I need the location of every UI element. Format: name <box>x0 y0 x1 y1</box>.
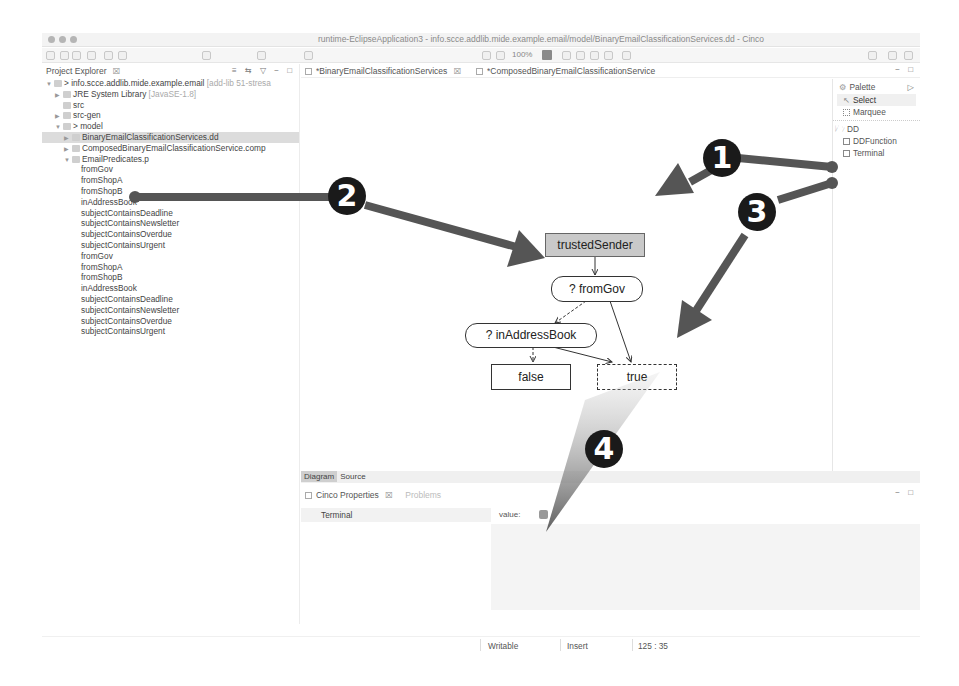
node-true-terminal[interactable]: true <box>597 364 677 390</box>
node-in-address-book[interactable]: ? inAddressBook <box>465 323 597 348</box>
tree-item[interactable]: ▼EmailPredicates.p <box>42 154 299 165</box>
project-explorer-title[interactable]: Project Explorer <box>46 66 106 76</box>
tree-item[interactable]: subjectContainsOverdue <box>42 316 299 327</box>
tree-item[interactable]: src <box>42 100 299 111</box>
java-perspective-icon[interactable] <box>888 51 897 60</box>
tree-item[interactable]: ▼> model <box>42 121 299 132</box>
cinco-properties-view: Cinco Properties ☒ Problems − □ Terminal… <box>301 484 920 624</box>
align-right-icon[interactable] <box>590 51 599 60</box>
tree-item-label: ComposedBinaryEmailClassificationService… <box>82 143 266 153</box>
tab-binary-email-classification-services[interactable]: *BinaryEmailClassificationServices ☒ <box>305 66 461 76</box>
save-all-icon[interactable] <box>72 51 81 60</box>
cinco-perspective-icon[interactable] <box>904 51 913 60</box>
properties-icon <box>305 492 312 499</box>
tree-item[interactable]: inAddressBook <box>42 197 299 208</box>
tab-cinco-properties[interactable]: Cinco Properties <box>316 490 379 500</box>
tree-item[interactable]: ▶BinaryEmailClassificationServices.dd <box>42 132 299 143</box>
tree-item-label: subjectContainsOverdue <box>81 316 172 326</box>
close-tab-icon[interactable]: ☒ <box>454 66 462 76</box>
tree-item[interactable]: inAddressBook <box>42 283 299 294</box>
tree-item-label: fromShopA <box>81 175 123 185</box>
refresh-icon[interactable] <box>104 51 113 60</box>
tab-diagram[interactable]: Diagram <box>301 471 337 482</box>
tree-item[interactable]: subjectContainsOverdue <box>42 229 299 240</box>
tree-item[interactable]: fromShopB <box>42 272 299 283</box>
tree-item-decoration: [JavaSE-1.8] <box>146 89 196 99</box>
value-label: value: <box>499 510 520 519</box>
tree-item[interactable]: subjectContainsUrgent <box>42 326 299 337</box>
select-arrow-icon: ↖ <box>843 95 850 105</box>
tree-item-label: fromGov <box>81 251 113 261</box>
editor-window-controls[interactable]: − □ <box>895 65 916 74</box>
tree-item[interactable]: subjectContainsNewsletter <box>42 218 299 229</box>
tab-composed-binary-email-classification-service[interactable]: *ComposedBinaryEmailClassificationServic… <box>476 66 655 76</box>
tree-item-label: JRE System Library <box>73 89 146 99</box>
tree-item[interactable]: fromGov <box>42 164 299 175</box>
palette-tool-marquee[interactable]: Marquee <box>833 106 920 118</box>
tree-item[interactable]: ▶JRE System Library [JavaSE-1.8] <box>42 89 299 100</box>
close-tab-icon[interactable]: ☒ <box>385 490 393 500</box>
zoom-in-icon[interactable] <box>496 51 505 60</box>
properties-window-controls[interactable]: − □ <box>895 488 916 497</box>
editor-tab-bar: *BinaryEmailClassificationServices ☒ *Co… <box>301 64 920 78</box>
save-icon[interactable] <box>60 51 69 60</box>
tree-item[interactable]: ▼> info.scce.addlib.mide.example.email [… <box>42 78 299 89</box>
run-icon[interactable] <box>118 51 127 60</box>
palette-toggle-icon[interactable] <box>542 50 552 60</box>
tree-item[interactable]: subjectContainsDeadline <box>42 294 299 305</box>
tree-item[interactable]: subjectContainsUrgent <box>42 240 299 251</box>
diagram-canvas[interactable]: trustedSender ? fromGov ? inAddressBook … <box>301 79 831 471</box>
distribute-icon[interactable] <box>622 51 631 60</box>
align-left-icon[interactable] <box>562 51 571 60</box>
tree-item-label: fromGov <box>81 164 113 174</box>
tree-item[interactable]: fromGov <box>42 251 299 262</box>
tree-item[interactable]: fromShopA <box>42 175 299 186</box>
node-trusted-sender[interactable]: trustedSender <box>545 233 645 257</box>
value-checkbox[interactable] <box>539 510 548 519</box>
tree-item-label: src-gen <box>73 110 101 120</box>
palette-item-terminal[interactable]: Terminal <box>833 147 920 159</box>
tree-item[interactable]: fromShopB <box>42 186 299 197</box>
node-from-gov[interactable]: ? fromGov <box>551 276 643 302</box>
diagram-file-icon <box>476 68 483 75</box>
close-tab-icon[interactable]: ☒ <box>113 66 121 76</box>
palette-group-dd[interactable]: 🗁DD <box>833 123 920 135</box>
tab-source[interactable]: Source <box>337 471 368 482</box>
resource-icon <box>63 123 71 130</box>
tab-problems[interactable]: Problems <box>405 490 441 500</box>
align-top-icon[interactable] <box>604 51 613 60</box>
navigate-icon[interactable] <box>202 51 211 60</box>
perspective-icon[interactable] <box>868 51 877 60</box>
status-cursor-position: 125 : 35 <box>638 641 668 651</box>
diagram-edges <box>301 79 831 471</box>
properties-header: Cinco Properties ☒ Problems − □ <box>301 484 920 504</box>
new-icon[interactable] <box>46 51 55 60</box>
tree-item-label: inAddressBook <box>81 197 137 207</box>
annotation-badge-4: 4 <box>585 430 623 468</box>
palette-collapse-icon[interactable]: ▷ <box>908 81 914 93</box>
tree-item[interactable]: subjectContainsDeadline <box>42 208 299 219</box>
tree-item[interactable]: ▶src-gen <box>42 110 299 121</box>
zoom-level[interactable]: 100% <box>512 50 532 59</box>
marquee-icon <box>843 109 850 116</box>
view-menu-icons[interactable]: ≡ ⇆ ▽ − □ <box>232 66 295 75</box>
search-icon[interactable] <box>87 51 96 60</box>
resource-icon <box>63 112 71 119</box>
align-center-icon[interactable] <box>576 51 585 60</box>
palette-header[interactable]: ⚙Palette ▷ <box>833 81 920 93</box>
layout-icon[interactable] <box>304 51 313 60</box>
tree-item-label: > info.scce.addlib.mide.example.email <box>64 78 204 88</box>
palette-item-ddfunction[interactable]: DDFunction <box>833 135 920 147</box>
tree-item[interactable]: ▶ComposedBinaryEmailClassificationServic… <box>42 143 299 154</box>
back-icon[interactable] <box>257 51 266 60</box>
palette-tool-select[interactable]: ↖Select <box>837 94 916 106</box>
node-false-terminal[interactable]: false <box>491 364 571 390</box>
status-bar: Writable Insert 125 : 35 <box>42 636 920 652</box>
tree-item-label: subjectContainsNewsletter <box>81 218 179 228</box>
tree-item-label: subjectContainsDeadline <box>81 294 173 304</box>
selected-element-type[interactable]: Terminal <box>301 508 491 522</box>
tree-item[interactable]: subjectContainsNewsletter <box>42 305 299 316</box>
folder-icon: 🗁 <box>835 124 845 134</box>
zoom-out-icon[interactable] <box>482 51 491 60</box>
tree-item[interactable]: fromShopA <box>42 262 299 273</box>
